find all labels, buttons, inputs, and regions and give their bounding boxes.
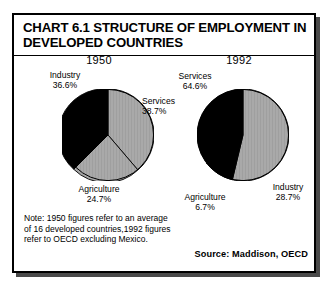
pie-label-1950-agriculture-name: Agriculture — [78, 184, 119, 194]
page-title: CHART 6.1 STRUCTURE OF EMPLOYMENT IN DEV… — [23, 21, 311, 50]
pie-label-1950-agriculture: Agriculture 24.7% — [62, 185, 136, 205]
pie-label-1950-agriculture-value: 24.7% — [62, 195, 136, 205]
chart-note: Note: 1950 figures refer to an average o… — [24, 213, 204, 245]
pie-label-1950-industry-value: 36.6% — [36, 81, 94, 91]
chart-note-line-1: Note: 1950 figures refer to an average — [24, 213, 204, 224]
pie-label-1992-industry-name: Industry — [273, 182, 304, 192]
pie-label-1950-industry-name: Industry — [50, 70, 81, 80]
pie-label-1950-services-name: Services — [142, 96, 175, 106]
chart-source: Source: Maddison, OECD — [174, 249, 308, 259]
pie-label-1992-services: Services 64.6% — [164, 72, 226, 92]
pie-label-1950-services-value: 38.7% — [142, 107, 204, 117]
pie-label-1992-industry-value: 28.7% — [260, 193, 316, 203]
chart-note-line-3: refer to OECD excluding Mexico. — [24, 234, 204, 245]
pie-title-1950: 1950 — [56, 54, 142, 66]
pie-label-1950-services: Services 38.7% — [142, 97, 204, 117]
pie-label-1992-services-value: 64.6% — [164, 82, 226, 92]
pie-label-1992-services-name: Services — [179, 71, 212, 81]
pie-label-1992-industry: Industry 28.7% — [260, 183, 316, 203]
pie-label-1992-agriculture-value: 6.7% — [172, 203, 238, 213]
pie-label-1992-agriculture: Agriculture 6.7% — [172, 193, 238, 213]
pie-title-1992: 1992 — [196, 54, 282, 66]
chart-figure: CHART 6.1 STRUCTURE OF EMPLOYMENT IN DEV… — [0, 0, 333, 290]
chart-panel: CHART 6.1 STRUCTURE OF EMPLOYMENT IN DEV… — [12, 13, 316, 273]
pie-chart-1992 — [197, 89, 289, 181]
chart-note-line-2: of 16 developed countries,1992 figures — [24, 224, 204, 235]
pie-label-1950-industry: Industry 36.6% — [36, 71, 94, 91]
pie-label-1992-agriculture-name: Agriculture — [184, 192, 225, 202]
pie-chart-1950 — [62, 89, 154, 181]
